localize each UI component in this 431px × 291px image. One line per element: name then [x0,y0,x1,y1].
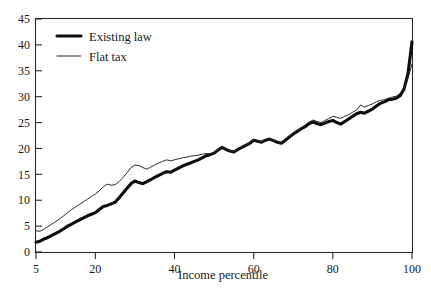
y-tick-label-5: 5 [24,219,30,233]
chart-legend: Existing lawFlat tax [57,30,152,64]
x-tick-label-5: 5 [33,262,39,276]
y-tick-label-25: 25 [18,116,30,130]
y-tick-label-10: 10 [18,193,30,207]
y-tick-label-35: 35 [18,64,30,78]
series-line-existing-law [36,42,412,242]
y-tick-label-30: 30 [18,90,30,104]
y-tick-label-45: 45 [18,12,30,26]
x-tick-label-100: 100 [403,262,421,276]
series-line-flat-tax [36,64,412,231]
y-tick-label-0: 0 [24,245,30,259]
y-axis-tick-labels: 051015202530354045 [18,12,30,259]
legend-label-existing-law: Existing law [89,30,152,44]
y-axis-ticks [36,19,42,252]
y-tick-label-40: 40 [18,38,30,52]
line-chart: 051015202530354045 520406080100 Income p… [0,0,431,291]
x-tick-label-20: 20 [89,262,101,276]
chart-figure: 051015202530354045 520406080100 Income p… [0,0,431,291]
legend-label-flat-tax: Flat tax [89,50,128,64]
y-tick-label-20: 20 [18,142,30,156]
x-tick-label-80: 80 [327,262,339,276]
data-series-group [36,42,412,242]
x-axis-title: Income percentile [178,268,268,282]
y-tick-label-15: 15 [18,168,30,182]
